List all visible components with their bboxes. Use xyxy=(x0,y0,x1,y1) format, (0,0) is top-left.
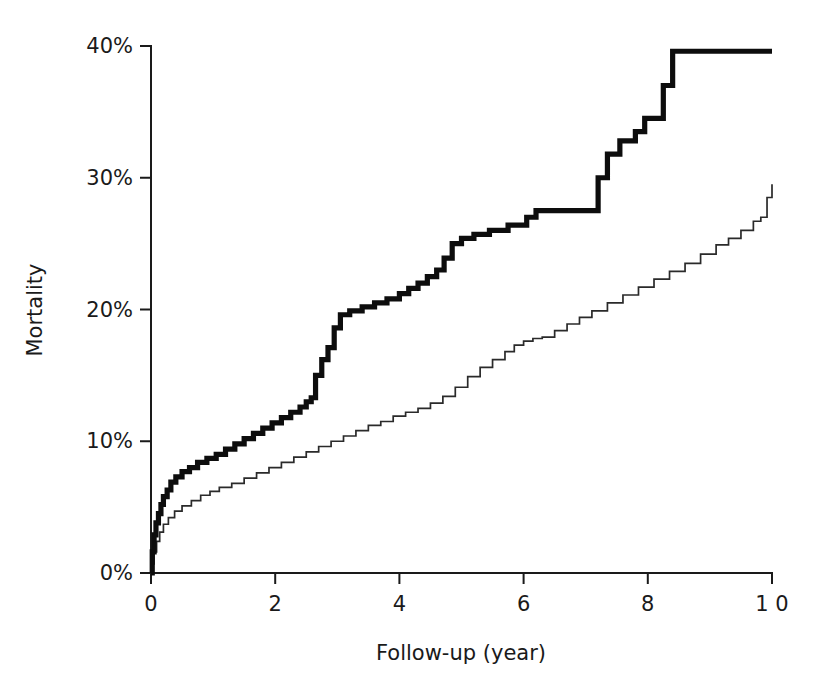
x-tick-label: 1 0 xyxy=(755,592,788,616)
y-tick-label: 10% xyxy=(86,429,133,453)
y-tick-label: 40% xyxy=(86,34,133,58)
x-tick-label: 6 xyxy=(517,592,530,616)
y-axis-ticks: 0%10%20%30%40% xyxy=(86,34,151,585)
y-axis-title: Mortality xyxy=(23,263,47,356)
y-tick-label: 0% xyxy=(100,561,133,585)
thick-mortality-curve xyxy=(151,51,772,573)
x-tick-label: 2 xyxy=(269,592,282,616)
chart-figure: 0%10%20%30%40% 024681 0 Follow-up (year)… xyxy=(0,0,819,682)
x-axis-ticks: 024681 0 xyxy=(144,573,788,616)
x-tick-label: 8 xyxy=(641,592,654,616)
x-tick-label: 0 xyxy=(144,592,157,616)
y-tick-label: 20% xyxy=(86,298,133,322)
mortality-chart: 0%10%20%30%40% 024681 0 Follow-up (year)… xyxy=(0,0,819,682)
y-tick-label: 30% xyxy=(86,166,133,190)
x-tick-label: 4 xyxy=(393,592,406,616)
x-axis-title: Follow-up (year) xyxy=(376,641,546,665)
